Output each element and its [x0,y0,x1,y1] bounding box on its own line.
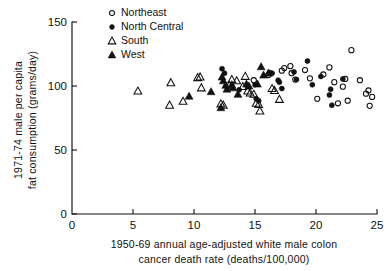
data-point-northeast [357,78,362,83]
x-tick-label: 15 [249,219,262,231]
series-northeast [251,48,375,109]
x-tick-label: 25 [371,219,384,231]
data-point-north-central [279,86,284,91]
legend-label-northeast: Northeast [121,6,167,18]
legend-marker-north-central [110,25,115,30]
scatter-plot-figure: 050100150 0510152025 NortheastNorth Cent… [0,0,392,271]
x-tick-label: 5 [130,219,136,231]
data-point-northeast [307,76,312,81]
data-point-south [167,79,175,86]
data-point-north-central [292,69,297,74]
chart-legend: NortheastNorth CentralSouthWest [108,6,183,60]
series-west [185,63,272,111]
legend-marker-south [108,37,116,44]
y-tick-label: 0 [61,208,67,220]
y-axis-title-line2: fat consumption (grams/day) [26,51,38,189]
data-point-northeast [335,101,340,106]
data-point-west [185,92,193,99]
legend-marker-northeast [110,11,115,16]
data-point-north-central [327,92,332,97]
chart-canvas: 050100150 0510152025 NortheastNorth Cent… [0,0,392,271]
legend-label-south: South [121,34,149,46]
data-point-northeast [345,98,350,103]
data-point-north-central [340,76,345,81]
data-point-south [197,84,205,91]
x-axis-title-line1: 1950-69 annual age-adjusted white male c… [111,238,338,250]
data-point-northeast [315,96,320,101]
legend-marker-west [108,51,116,58]
x-axis-title-line2: cancer death rate (deaths/100,000) [139,253,310,265]
data-point-northeast [327,65,332,70]
x-tick-label: 0 [69,219,75,231]
data-point-south [276,95,284,102]
data-point-north-central [310,82,315,87]
x-axis-title: 1950-69 annual age-adjusted white male c… [111,238,338,265]
data-point-north-central [318,74,323,79]
y-axis-title-line1: 1971-74 male per capita [12,61,24,179]
y-tick-label: 100 [48,80,67,92]
data-point-south [241,72,249,79]
data-point-northeast [302,67,307,72]
data-point-northeast [370,94,375,99]
axes [72,22,377,214]
data-point-north-central [328,87,333,92]
data-points-layer [134,48,375,114]
data-point-northeast [332,80,337,85]
x-axis-ticks: 0510152025 [69,209,384,231]
y-axis-ticks: 050100150 [48,16,77,220]
data-point-north-central [305,59,310,64]
y-axis-title: 1971-74 male per capita fat consumption … [12,51,38,189]
data-point-west [257,63,265,70]
data-point-north-central [329,103,334,108]
x-tick-label: 20 [310,219,323,231]
x-tick-label: 10 [188,219,201,231]
data-point-south [166,101,174,108]
data-point-north-central [277,80,282,85]
data-point-northeast [367,103,372,108]
y-tick-label: 150 [48,16,67,28]
data-point-north-central [294,77,299,82]
data-point-northeast [349,48,354,53]
data-point-northeast [288,64,293,69]
data-point-northeast [340,84,345,89]
y-tick-label: 50 [54,144,67,156]
data-point-north-central [220,66,225,71]
axis-lines [72,22,377,214]
legend-label-west: West [121,48,145,60]
data-point-west [207,88,215,95]
legend-label-north-central: North Central [121,20,183,32]
data-point-south [134,87,142,94]
